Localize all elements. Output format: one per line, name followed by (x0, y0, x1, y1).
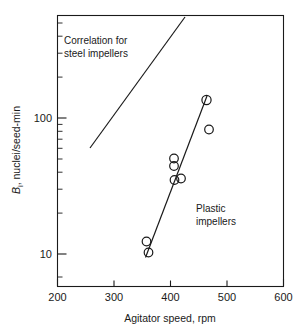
x-tick-label: 200 (48, 291, 66, 303)
x-axis-title: Agitator speed, rpm (124, 312, 216, 324)
steel-impellers-label-line2: steel impellers (64, 48, 128, 59)
steel-impellers-label: Correlation for steel impellers (64, 35, 128, 59)
y-axis-major-ticks (58, 118, 67, 254)
plastic-impellers-label-line1: Plastic (196, 203, 225, 214)
y-axis-symbol: B (10, 187, 22, 194)
chart-figure: 200 300 400 500 600 Agitator speed, rpm … (0, 0, 295, 329)
steel-impellers-label-line1: Correlation for (64, 35, 128, 46)
x-tick-label: 400 (161, 291, 179, 303)
x-axis-ticks (58, 279, 284, 287)
svg-text:Bi, nuclei/seed-min: Bi, nuclei/seed-min (10, 106, 25, 194)
y-axis-title: Bi, nuclei/seed-min (10, 106, 25, 194)
data-point (142, 237, 151, 246)
y-axis-units: , nuclei/seed-min (10, 106, 22, 186)
plastic-impellers-label: Plastic impellers (196, 203, 236, 227)
y-tick-label: 100 (34, 112, 52, 124)
x-tick-label: 500 (218, 291, 236, 303)
plastic-data-points (142, 95, 213, 256)
y-axis-minor-ticks (58, 23, 63, 277)
x-tick-label: 300 (105, 291, 123, 303)
y-tick-labels: 100 10 (34, 112, 52, 260)
data-point (205, 125, 214, 134)
x-tick-label: 600 (274, 291, 292, 303)
plastic-impellers-label-line2: impellers (196, 216, 236, 227)
chart-svg: 200 300 400 500 600 Agitator speed, rpm … (0, 0, 295, 329)
x-tick-labels: 200 300 400 500 600 (48, 291, 292, 303)
y-tick-label: 10 (40, 248, 52, 260)
plastic-fit-line (146, 96, 208, 258)
